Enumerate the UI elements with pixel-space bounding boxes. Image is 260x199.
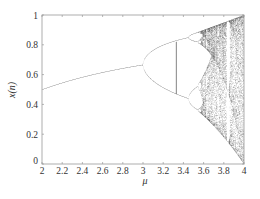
x-tick-label: 3.4: [177, 166, 189, 176]
y-tick-label: 0.4: [26, 100, 38, 110]
x-tick-label: 3.8: [218, 166, 230, 176]
bifurcation-chart: 22.22.42.62.833.23.43.63.84 00.20.40.60.…: [0, 0, 260, 199]
x-tick-label: 2.4: [76, 166, 88, 176]
y-tick-label: 0.8: [26, 40, 38, 50]
x-tick-label: 4: [242, 166, 247, 176]
x-tick-label: 3.2: [157, 166, 169, 176]
y-tick-label: 0.6: [26, 70, 38, 80]
x-tick-label: 2.2: [56, 166, 68, 176]
y-tick-label: 0: [33, 156, 38, 166]
x-axis-label: μ: [141, 175, 147, 186]
x-tick-label: 3.6: [198, 166, 210, 176]
x-tick-label: 2: [40, 166, 45, 176]
y-tick-label: 1: [33, 11, 38, 21]
x-tick-label: 2.8: [117, 166, 129, 176]
y-axis-label: x(n): [6, 81, 18, 99]
y-tick-label: 0.2: [26, 130, 38, 140]
x-tick-label: 2.6: [97, 166, 109, 176]
